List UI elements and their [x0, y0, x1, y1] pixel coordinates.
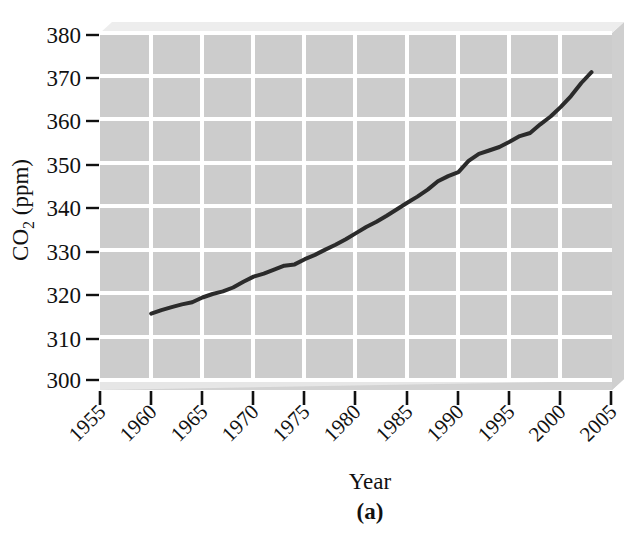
y-axis-title-co: CO: [8, 229, 33, 261]
xtick-label-2005: 2005: [575, 400, 622, 447]
ytick-label-310: 310: [47, 327, 82, 352]
ytick-label-380: 380: [47, 23, 82, 48]
xtick-label-1965: 1965: [166, 400, 213, 447]
ytick-label-370: 370: [47, 66, 82, 91]
xtick-label-1970: 1970: [217, 400, 264, 447]
ytick-label-300: 300: [47, 368, 82, 393]
ytick-label-320: 320: [47, 283, 82, 308]
xtick-label-1995: 1995: [473, 400, 520, 447]
panel-label: (a): [357, 499, 384, 524]
xtick-label-1960: 1960: [115, 400, 162, 447]
x-axis-tick-labels: 1955 1960 1965 1970 1975 1980 1985 1990 …: [64, 400, 622, 447]
xtick-label-2000: 2000: [524, 400, 571, 447]
xtick-label-1975: 1975: [268, 400, 315, 447]
ytick-label-330: 330: [47, 240, 82, 265]
xtick-label-1980: 1980: [319, 400, 366, 447]
x-axis-title: Year: [349, 469, 392, 494]
ytick-label-340: 340: [47, 196, 82, 221]
y-axis-title-unit: (ppm): [8, 159, 33, 221]
y-axis-ticks: [86, 35, 99, 380]
xtick-label-1990: 1990: [422, 400, 469, 447]
xtick-label-1985: 1985: [371, 400, 418, 447]
y-axis-title-subscript: 2: [20, 221, 37, 229]
ytick-label-350: 350: [47, 153, 82, 178]
co2-figure: 380 370 360 350 340 330 320 310 300 CO2 …: [0, 0, 638, 542]
x-axis-ticks: [100, 391, 611, 405]
plot-right-bevel: [612, 22, 624, 390]
xtick-label-1955: 1955: [64, 400, 111, 447]
y-axis-title: CO2 (ppm): [8, 159, 37, 261]
chart-canvas: 380 370 360 350 340 330 320 310 300 CO2 …: [0, 0, 638, 542]
svg-text:CO2 (ppm): CO2 (ppm): [8, 159, 37, 261]
ytick-label-360: 360: [47, 109, 82, 134]
